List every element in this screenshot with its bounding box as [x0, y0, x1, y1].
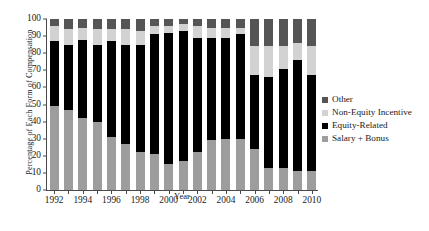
legend-label: Non-Equity Incentive	[332, 108, 412, 117]
bar-segment	[78, 19, 87, 28]
bar-1994	[78, 19, 87, 190]
y-tick-mark-20	[43, 155, 47, 156]
legend-item-non-equity-incentive: Non-Equity Incentive	[322, 106, 412, 119]
legend-item-equity-related: Equity-Related	[322, 119, 412, 132]
bar-segment	[221, 139, 230, 190]
y-tick-mark-0	[43, 190, 47, 191]
legend-label: Equity-Related	[332, 121, 388, 130]
bar-segment	[107, 29, 116, 41]
legend-item-other: Other	[322, 93, 412, 106]
y-tick-mark-30	[43, 138, 47, 139]
bar-2005	[236, 19, 245, 190]
bar-2000	[164, 19, 173, 190]
bar-segment	[64, 29, 73, 44]
bar-segment	[93, 122, 102, 190]
y-tick-mark-90	[43, 36, 47, 37]
bar-segment	[307, 171, 316, 190]
bar-segment	[264, 46, 273, 77]
bar-segment	[78, 40, 87, 119]
bar-segment	[236, 34, 245, 138]
bar-2002	[193, 19, 202, 190]
legend-label: Other	[332, 95, 353, 104]
bar-segment	[279, 69, 288, 168]
bar-1998	[136, 19, 145, 190]
bar-segment	[250, 149, 259, 190]
bar-segment	[264, 168, 273, 190]
bar-segment	[207, 140, 216, 190]
bar-segment	[121, 144, 130, 190]
bar-segment	[250, 75, 259, 149]
bar-segment	[264, 77, 273, 168]
bar-1997	[121, 19, 130, 190]
bar-2006	[250, 19, 259, 190]
bar-segment	[279, 19, 288, 46]
x-axis-title: Year	[46, 192, 318, 201]
bar-segment	[293, 19, 302, 43]
bar-2010	[307, 19, 316, 190]
bar-segment	[207, 38, 216, 141]
bar-segment	[293, 171, 302, 190]
bar-segment	[221, 28, 230, 38]
bar-segment	[179, 24, 188, 31]
bar-segment	[179, 161, 188, 190]
bar-segment	[136, 19, 145, 31]
bar-segment	[121, 45, 130, 144]
bar-segment	[150, 154, 159, 190]
bar-segment	[207, 28, 216, 38]
bar-segment	[93, 45, 102, 122]
plot-area: 0102030405060708090100 19921994199619982…	[46, 19, 318, 190]
legend-label: Salary + Bonus	[332, 134, 389, 143]
bar-segment	[121, 19, 130, 29]
bar-segment	[293, 60, 302, 171]
legend-swatch-icon	[322, 136, 328, 142]
bar-segment	[64, 45, 73, 110]
bar-segment	[107, 19, 116, 29]
bar-1993	[64, 19, 73, 190]
legend-swatch-icon	[322, 97, 328, 103]
bar-segment	[107, 137, 116, 190]
bar-2001	[179, 19, 188, 190]
bar-segment	[107, 41, 116, 137]
y-tick-mark-80	[43, 53, 47, 54]
bar-segment	[179, 31, 188, 161]
bar-segment	[50, 26, 59, 41]
bar-segment	[193, 38, 202, 153]
y-tick-mark-10	[43, 172, 47, 173]
y-tick-mark-100	[43, 19, 47, 20]
bar-segment	[236, 28, 245, 35]
y-tick-mark-60	[43, 87, 47, 88]
bar-segment	[121, 29, 130, 44]
bar-segment	[193, 26, 202, 38]
legend-item-salary-bonus: Salary + Bonus	[322, 132, 412, 145]
bar-segment	[78, 28, 87, 40]
bar-segment	[250, 19, 259, 46]
bar-segment	[193, 19, 202, 26]
bar-segment	[307, 19, 316, 46]
bar-segment	[293, 43, 302, 60]
bar-segment	[236, 19, 245, 28]
bar-segment	[207, 19, 216, 28]
bar-segment	[93, 29, 102, 44]
bar-segment	[279, 168, 288, 190]
bar-segment	[279, 46, 288, 68]
legend: OtherNon-Equity IncentiveEquity-RelatedS…	[322, 93, 412, 145]
bar-segment	[136, 152, 145, 190]
bar-segment	[64, 19, 73, 29]
bar-segment	[78, 118, 87, 190]
y-tick-mark-40	[43, 121, 47, 122]
bar-segment	[236, 139, 245, 190]
legend-swatch-icon	[322, 123, 328, 129]
bar-segment	[164, 33, 173, 165]
bar-segment	[221, 38, 230, 139]
bar-segment	[307, 75, 316, 171]
bar-segment	[50, 19, 59, 26]
bar-segment	[150, 34, 159, 154]
stacked-bar-chart: Percentage of Each Form of Compensation …	[0, 0, 429, 231]
bar-segment	[93, 19, 102, 29]
bar-segment	[307, 46, 316, 75]
bar-segment	[179, 19, 188, 24]
bar-2004	[221, 19, 230, 190]
bar-1992	[50, 19, 59, 190]
bar-2003	[207, 19, 216, 190]
bar-segment	[150, 26, 159, 35]
